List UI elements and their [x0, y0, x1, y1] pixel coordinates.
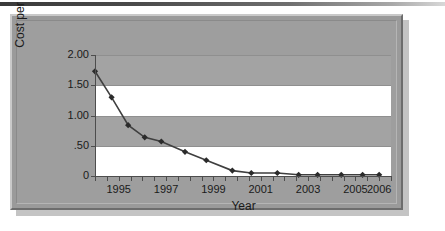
- x-tick-label: 1997: [146, 183, 186, 195]
- x-tick: [178, 177, 179, 181]
- y-tick: [91, 55, 95, 56]
- x-tick: [95, 177, 96, 181]
- data-point-marker: [182, 149, 188, 155]
- x-tick: [284, 177, 285, 181]
- x-tick-label: 2006: [359, 183, 399, 195]
- x-tick: [166, 177, 167, 181]
- y-tick: [91, 116, 95, 117]
- x-tick-label: 1995: [99, 183, 139, 195]
- x-tick-label: 1999: [193, 183, 233, 195]
- x-tick: [320, 177, 321, 181]
- x-tick-label: 2003: [288, 183, 328, 195]
- x-axis-line: [95, 176, 392, 177]
- x-tick: [237, 177, 238, 181]
- chart-inner-panel: 2.001.501.00.500 19951997199920012003200…: [16, 20, 397, 204]
- x-tick: [249, 177, 250, 181]
- y-axis-line: [95, 55, 96, 177]
- x-tick: [391, 177, 392, 181]
- y-tick-label: 1.00: [45, 110, 89, 121]
- plot-area: [95, 55, 391, 176]
- y-tick-label: .50: [45, 140, 89, 151]
- x-tick: [273, 177, 274, 181]
- x-tick: [154, 177, 155, 181]
- data-point-marker: [229, 167, 235, 173]
- x-tick: [355, 177, 356, 181]
- x-tick: [261, 177, 262, 181]
- x-tick: [296, 177, 297, 181]
- x-tick: [202, 177, 203, 181]
- y-tick-label: 2.00: [45, 49, 89, 60]
- top-rule-divider: [0, 2, 445, 6]
- x-tick: [107, 177, 108, 181]
- y-tick-label: 1.50: [45, 79, 89, 90]
- y-axis-title: Cost per kilobit ($): [13, 0, 27, 59]
- x-tick: [213, 177, 214, 181]
- x-tick: [308, 177, 309, 181]
- x-tick: [190, 177, 191, 181]
- x-tick-label: 2001: [241, 183, 281, 195]
- x-tick: [379, 177, 380, 181]
- data-point-marker: [203, 157, 209, 163]
- x-tick: [119, 177, 120, 181]
- data-series-line: [95, 55, 392, 177]
- x-tick: [225, 177, 226, 181]
- x-tick: [367, 177, 368, 181]
- y-tick-label: 0: [45, 170, 89, 181]
- x-axis-title: Year: [95, 199, 392, 213]
- y-tick: [91, 146, 95, 147]
- x-tick: [332, 177, 333, 181]
- chart-frame: 2.001.501.00.500 19951997199920012003200…: [10, 14, 403, 210]
- x-tick: [142, 177, 143, 181]
- x-tick: [344, 177, 345, 181]
- y-tick: [91, 85, 95, 86]
- x-tick: [131, 177, 132, 181]
- data-point-marker: [158, 138, 164, 144]
